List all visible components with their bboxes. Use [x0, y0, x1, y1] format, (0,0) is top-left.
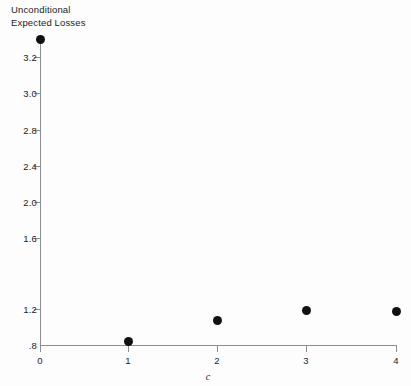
data-point [36, 35, 45, 44]
x-tick-mark [306, 345, 307, 352]
y-tick-label: 2.0 [23, 197, 37, 208]
x-tick-label: 4 [386, 355, 406, 366]
x-axis-label: c [198, 371, 218, 382]
y-axis-line [40, 39, 41, 346]
data-point [392, 307, 401, 316]
y-tick-label: 2.8 [23, 125, 37, 136]
x-tick-mark [128, 345, 129, 352]
y-tick-label: 1.6 [23, 233, 37, 244]
data-point [213, 316, 222, 325]
x-tick-mark [217, 345, 218, 352]
x-tick-label: 1 [118, 355, 138, 366]
x-tick-mark [396, 345, 397, 352]
x-axis-line [40, 345, 397, 346]
data-point [302, 306, 311, 315]
x-tick-mark [40, 345, 41, 352]
chart-figure: UnconditionalExpected Losses 3.2 3.0 2.8… [0, 0, 411, 386]
x-tick-label: 2 [207, 355, 227, 366]
y-tick-label: 1.2 [23, 304, 37, 315]
data-point [124, 337, 133, 346]
y-tick-label: .8 [29, 340, 37, 351]
y-tick-label: 3.2 [23, 52, 37, 63]
x-tick-label: 0 [30, 355, 50, 366]
plot-area: 3.2 3.0 2.8 2.4 2.0 1.6 1.2 .8 0 1 2 3 4… [0, 0, 411, 386]
y-tick-label: 3.0 [23, 88, 37, 99]
y-tick-label: 2.4 [23, 161, 37, 172]
x-tick-label: 3 [296, 355, 316, 366]
